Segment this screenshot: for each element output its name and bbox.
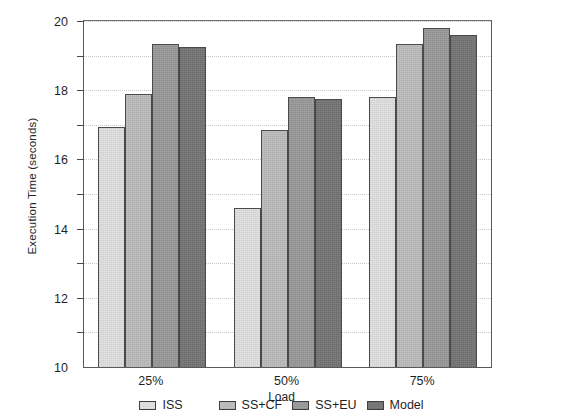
- y-axis-tick: 14: [77, 125, 84, 126]
- y-axis-tick-label: 16: [54, 153, 68, 167]
- y-axis-tick: 10: [77, 194, 84, 195]
- bar-group: [369, 21, 477, 367]
- y-axis-tick: 2: [77, 332, 84, 333]
- y-axis-tick: 16: [77, 90, 84, 91]
- bar: [125, 94, 152, 367]
- legend-label: Model: [390, 398, 424, 412]
- y-axis-tick: 8: [77, 229, 84, 230]
- y-axis-tick: 6: [77, 263, 84, 264]
- legend-swatch-icon: [292, 401, 309, 410]
- legend-swatch-icon: [139, 401, 156, 410]
- legend-label: SS+CF: [242, 398, 283, 412]
- bar: [261, 130, 288, 367]
- y-axis-tick-label: 10: [54, 361, 68, 375]
- x-axis-tick-label: 25%: [138, 374, 163, 388]
- bar: [369, 97, 396, 367]
- legend-swatch-icon: [367, 401, 384, 410]
- bar-group: [98, 21, 206, 367]
- y-axis-tick: 12: [77, 159, 84, 160]
- bar: [315, 99, 342, 367]
- y-axis-tick: 18: [77, 56, 84, 57]
- y-axis-tick-label: 18: [54, 84, 68, 98]
- y-axis-tick: 20: [77, 21, 84, 22]
- bar: [396, 44, 423, 368]
- y-axis-tick-label: 12: [54, 292, 68, 306]
- bar-group: [234, 21, 342, 367]
- legend-item-iss: ISS: [139, 398, 182, 412]
- bar: [423, 28, 450, 367]
- legend-item-model: Model: [367, 398, 424, 412]
- bar-chart-figure: Execution Time (seconds) 246810121416182…: [0, 0, 563, 418]
- bar: [288, 97, 315, 367]
- plot-area: 2468101214161820: [83, 20, 492, 368]
- bar: [234, 208, 261, 367]
- x-axis-tick-label: 75%: [410, 374, 435, 388]
- y-axis-tick: 4: [77, 298, 84, 299]
- y-axis-tick-label: 20: [54, 15, 68, 29]
- bar: [98, 127, 125, 367]
- legend-label: ISS: [162, 398, 182, 412]
- legend-item-ss-cf: SS+CF: [219, 398, 283, 412]
- bar: [179, 47, 206, 367]
- y-axis-title: Execution Time (seconds): [26, 51, 38, 321]
- chart-legend: ISSSS+CFSS+EUModel: [0, 398, 563, 412]
- legend-swatch-icon: [219, 401, 236, 410]
- x-axis-tick-label: 50%: [274, 374, 299, 388]
- y-axis-tick-label: 14: [54, 223, 68, 237]
- plot-inner: 2468101214161820: [84, 21, 491, 367]
- bar: [152, 44, 179, 368]
- bar: [450, 35, 477, 367]
- legend-item-ss-eu: SS+EU: [292, 398, 356, 412]
- legend-label: SS+EU: [315, 398, 356, 412]
